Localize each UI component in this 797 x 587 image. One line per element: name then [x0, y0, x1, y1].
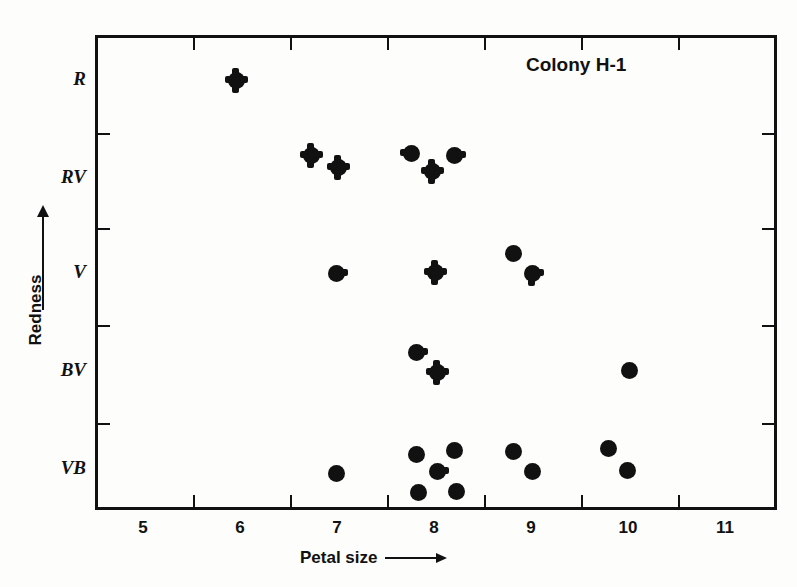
x-axis-label-11: 11	[705, 518, 745, 538]
data-point	[446, 147, 463, 164]
data-point	[424, 163, 441, 180]
data-point	[228, 72, 245, 89]
data-point	[429, 364, 446, 381]
x-axis-label-6: 6	[220, 518, 260, 538]
data-point	[524, 265, 541, 282]
data-point	[505, 245, 522, 262]
data-point	[410, 484, 427, 501]
x-axis-title-text: Petal size	[300, 548, 378, 568]
y-axis-label-R: R	[16, 68, 86, 90]
data-point	[328, 265, 345, 282]
data-point	[505, 443, 522, 460]
data-point	[330, 159, 347, 176]
data-point	[448, 483, 465, 500]
data-point	[446, 442, 463, 459]
x-axis-label-8: 8	[414, 518, 454, 538]
data-point	[600, 440, 617, 457]
data-points-layer	[98, 38, 774, 507]
data-point	[408, 446, 425, 463]
figure-canvas: Colony H-1 5 6 7 8 9 10 11 R RV V BV VB	[0, 0, 797, 587]
data-point	[303, 147, 320, 164]
data-point	[524, 463, 541, 480]
x-axis-label-10: 10	[608, 518, 648, 538]
data-point	[403, 145, 420, 162]
x-axis-title: Petal size	[300, 548, 447, 568]
data-point	[408, 344, 425, 361]
data-point	[328, 465, 345, 482]
y-axis-label-VB: VB	[16, 457, 86, 479]
y-axis-label-RV: RV	[16, 166, 86, 188]
x-axis-label-9: 9	[511, 518, 551, 538]
x-axis-label-7: 7	[317, 518, 357, 538]
data-point	[429, 463, 446, 480]
up-arrow-icon	[36, 205, 50, 310]
plot-frame: Colony H-1	[95, 35, 777, 510]
data-point	[427, 264, 444, 281]
data-point	[621, 362, 638, 379]
x-axis-label-5: 5	[123, 518, 163, 538]
right-arrow-icon	[385, 553, 447, 563]
data-point	[619, 462, 636, 479]
